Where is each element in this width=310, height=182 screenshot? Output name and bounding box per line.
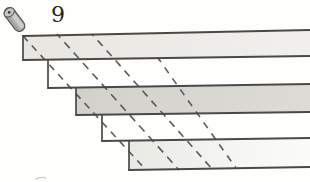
staircase-svg [0, 0, 310, 182]
staircase-figure: 9 [0, 0, 310, 182]
step-slab-5 [129, 138, 310, 170]
stray-pencil-mark [36, 177, 46, 179]
step-slab-3 [76, 84, 310, 115]
cylinder-end-dot [8, 11, 11, 14]
